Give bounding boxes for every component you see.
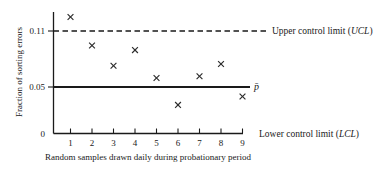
x-tick-label-2: 2 <box>90 138 95 148</box>
x-tick-label-3: 3 <box>111 138 116 148</box>
control-chart: 0.11 0.05 0 1 2 3 4 5 6 7 8 9 Random sam… <box>0 0 378 178</box>
lcl-label-close: ) <box>356 129 359 140</box>
lcl-label-abbr: LCL <box>338 129 356 139</box>
y-tick-label-0: 0 <box>41 129 46 139</box>
ucl-label-close: ) <box>369 26 372 37</box>
y-tick-label-005: 0.05 <box>29 82 45 92</box>
x-tick-label-1: 1 <box>68 138 73 148</box>
lower-control-limit-label: Lower control limit (LCL) <box>259 129 359 140</box>
lcl-label-text: Lower control limit ( <box>259 129 339 140</box>
chart-canvas: 0.11 0.05 0 1 2 3 4 5 6 7 8 9 Random sam… <box>0 0 378 178</box>
y-tick-label-011: 0.11 <box>30 26 45 36</box>
x-tick-label-5: 5 <box>154 138 159 148</box>
x-tick-label-4: 4 <box>133 138 138 148</box>
x-tick-label-6: 6 <box>176 138 181 148</box>
x-tick-label-7: 7 <box>197 138 202 148</box>
x-tick-label-8: 8 <box>219 138 224 148</box>
upper-control-limit-label: Upper control limit (UCL) <box>272 26 373 37</box>
ucl-label-text: Upper control limit ( <box>272 26 351 37</box>
x-axis-title: Random samples drawn daily during probat… <box>45 152 251 162</box>
x-tick-label-9: 9 <box>240 138 245 148</box>
ucl-label-abbr: UCL <box>351 26 369 36</box>
y-axis-title: Fraction of sorting errors <box>14 26 24 117</box>
pbar-label: p̄ <box>253 81 259 92</box>
